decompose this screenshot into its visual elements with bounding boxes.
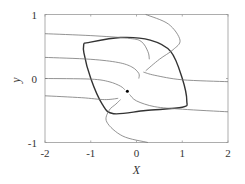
x-tick-label: -1 <box>86 147 95 159</box>
x-tick-label: 0 <box>134 147 140 159</box>
tick-labels: -2-1012-101 <box>28 9 231 159</box>
phase-portrait-chart: -2-1012-101 X y <box>0 0 245 184</box>
x-tick-label: 2 <box>225 147 231 159</box>
trajectory-curve <box>106 100 148 143</box>
trajectory-curve <box>45 96 118 100</box>
trajectory-curve <box>130 95 228 112</box>
y-tick-label: -1 <box>28 137 37 149</box>
trajectory-curve <box>146 15 180 71</box>
limit-cycle-curve <box>83 37 187 114</box>
x-tick-label: -2 <box>40 147 49 159</box>
y-tick-label: 0 <box>32 73 38 85</box>
x-axis-label: X <box>132 163 141 177</box>
trajectory-curve <box>143 72 228 82</box>
y-axis-label: y <box>9 77 23 84</box>
trajectories <box>45 15 228 143</box>
trajectory-curve <box>45 79 125 91</box>
x-tick-label: 1 <box>180 147 186 159</box>
fixed-point-marker <box>126 90 129 93</box>
trajectory-curve <box>45 57 139 78</box>
y-tick-label: 1 <box>32 9 38 21</box>
